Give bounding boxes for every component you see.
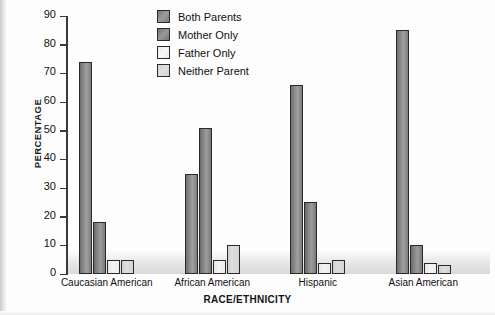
- bar: [93, 222, 106, 274]
- x-axis-label: Caucasian American: [54, 277, 160, 288]
- legend-item[interactable]: Both Parents: [157, 8, 249, 25]
- legend-swatch-icon: [157, 28, 170, 41]
- x-axis-label: Hispanic: [265, 277, 371, 288]
- bar: [79, 62, 92, 274]
- bar: [107, 260, 120, 274]
- y-axis-tick-value: 30: [30, 180, 56, 192]
- y-axis-tick-value: 0: [30, 266, 56, 278]
- y-axis-tick: [60, 274, 68, 276]
- y-axis-tick-value: 40: [30, 151, 56, 163]
- bar: [227, 245, 240, 274]
- y-axis-tick-value: 20: [30, 209, 56, 221]
- legend-item[interactable]: Father Only: [157, 44, 249, 61]
- legend-label: Father Only: [178, 47, 235, 59]
- bar-group: [79, 16, 134, 274]
- bar-group: [290, 16, 345, 274]
- y-axis-tick: [60, 245, 68, 247]
- bar-chart: PERCENTAGE RACE/ETHNICITY 01020304050607…: [0, 0, 495, 315]
- bar: [438, 265, 451, 274]
- y-axis-tick: [60, 16, 68, 18]
- bar: [185, 174, 198, 274]
- legend-item[interactable]: Neither Parent: [157, 62, 249, 79]
- y-axis-tick: [60, 159, 68, 161]
- legend-item[interactable]: Mother Only: [157, 26, 249, 43]
- y-axis-tick: [60, 73, 68, 75]
- y-axis-tick: [60, 216, 68, 218]
- bar: [396, 30, 409, 274]
- y-axis-tick: [60, 188, 68, 190]
- bar: [213, 260, 226, 274]
- legend-swatch-icon: [157, 46, 170, 59]
- bar: [410, 245, 423, 274]
- bar: [121, 260, 134, 274]
- plot-area: [68, 16, 490, 274]
- y-axis-tick: [60, 102, 68, 104]
- bar-group: [396, 16, 451, 274]
- x-axis-title: RACE/ETHNICITY: [0, 294, 495, 305]
- y-axis-tick-value: 70: [30, 65, 56, 77]
- legend-label: Neither Parent: [178, 65, 249, 77]
- bar: [318, 263, 331, 274]
- scan-edge-artifact-bottom: [0, 311, 495, 315]
- y-axis-tick: [60, 130, 68, 132]
- bar: [199, 128, 212, 274]
- y-axis-tick-value: 10: [30, 237, 56, 249]
- bar: [332, 260, 345, 274]
- x-axis-label: Asian American: [371, 277, 477, 288]
- legend-swatch-icon: [157, 64, 170, 77]
- bar: [424, 263, 437, 274]
- y-axis-tick: [60, 44, 68, 46]
- x-axis-label: African American: [160, 277, 266, 288]
- legend-label: Mother Only: [178, 29, 238, 41]
- bar: [290, 85, 303, 274]
- legend: Both ParentsMother OnlyFather OnlyNeithe…: [157, 8, 249, 80]
- legend-label: Both Parents: [178, 11, 242, 23]
- legend-swatch-icon: [157, 10, 170, 23]
- y-axis-tick-value: 90: [30, 8, 56, 20]
- scan-edge-artifact: [0, 0, 7, 315]
- y-axis-tick-value: 80: [30, 37, 56, 49]
- y-axis-tick-value: 50: [30, 123, 56, 135]
- y-axis-tick-value: 60: [30, 94, 56, 106]
- bar: [304, 202, 317, 274]
